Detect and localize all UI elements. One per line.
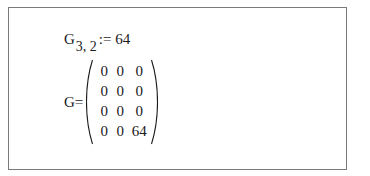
left-paren-icon bbox=[86, 59, 93, 145]
right-paren-icon bbox=[151, 59, 158, 145]
assignment-expression[interactable]: G3, 2:= 64 bbox=[64, 30, 130, 49]
matrix-cells: 0 0 0 0 0 0 0 0 0 0 0 64 bbox=[93, 59, 151, 145]
assignment-operator: := bbox=[99, 31, 112, 47]
matrix-cell: 0 bbox=[112, 101, 128, 121]
assignment-value: 64 bbox=[115, 31, 130, 47]
matrix-cell: 0 bbox=[112, 61, 128, 81]
matrix-cell: 0 bbox=[128, 61, 150, 81]
matrix-cell: 0 bbox=[96, 61, 112, 81]
matrix-cell: 0 bbox=[112, 81, 128, 101]
matrix-cell: 0 bbox=[96, 121, 112, 141]
worksheet-region bbox=[8, 7, 347, 170]
matrix-cell: 0 bbox=[112, 121, 128, 141]
evaluation-operator: = bbox=[75, 94, 83, 110]
matrix-cell: 0 bbox=[96, 101, 112, 121]
evaluation-lhs: G= bbox=[64, 94, 83, 111]
matrix-cell: 0 bbox=[96, 81, 112, 101]
evaluation-variable: G bbox=[64, 94, 75, 110]
assignment-subscript: 3, 2 bbox=[76, 39, 97, 54]
result-matrix: 0 0 0 0 0 0 0 0 0 0 0 64 bbox=[86, 59, 158, 145]
evaluation-expression[interactable]: G= 0 0 0 0 0 0 0 0 0 0 0 64 bbox=[64, 58, 158, 146]
assignment-variable: G bbox=[64, 31, 75, 47]
matrix-cell: 0 bbox=[128, 101, 150, 121]
matrix-cell: 64 bbox=[128, 121, 150, 141]
matrix-cell: 0 bbox=[128, 81, 150, 101]
